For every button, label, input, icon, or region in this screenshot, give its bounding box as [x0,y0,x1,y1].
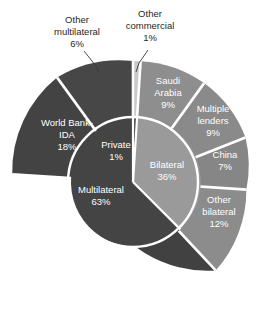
label-bilateral-pct: 36% [157,171,177,182]
label-multiple-pct: 9% [206,127,220,138]
label-saudi-line2: Arabia [154,87,182,98]
label-world-bank-line1: World Bank- [41,117,93,128]
label-multiple-line2: lenders [197,115,228,126]
label-imf-pct: 38% [102,259,122,270]
label-multilateral-pct: 63% [91,196,111,207]
label-world-bank-line2: IDA [59,129,76,140]
label-private-line1: Private [101,139,131,150]
outside-labels: Other multilateral 6% Other commercial 1… [54,8,174,49]
label-saudi-line1: Saudi [156,75,180,86]
label-other-multilateral-line2: multilateral [54,26,100,37]
label-saudi-pct: 9% [161,99,175,110]
label-bilateral-line1: Bilateral [150,159,184,170]
label-multilateral-line1: Multilateral [78,184,124,195]
label-other-multilateral-pct: 6% [70,38,84,49]
label-other-bilateral-line2: bilateral [202,206,235,217]
label-imf-line1: IMF [104,247,121,258]
label-multiple-line1: Multiple [197,103,230,114]
label-other-bilateral-pct: 12% [209,218,229,229]
label-other-commercial-line2: commercial [126,20,175,31]
top-text-fragment [24,0,254,7]
label-private-pct: 1% [109,151,123,162]
label-other-commercial-line1: Other [138,8,162,19]
pie-chart-figure: Other multilateral 6% Other commercial 1… [0,0,274,324]
label-world-bank-pct: 18% [57,141,77,152]
nested-pie-chart: Other multilateral 6% Other commercial 1… [0,0,274,324]
label-china-line1: China [213,149,239,160]
label-other-bilateral-line1: Other [207,194,231,205]
label-other-multilateral-line1: Other [65,14,89,25]
label-china-pct: 7% [218,161,232,172]
label-other-commercial-pct: 1% [143,32,157,43]
